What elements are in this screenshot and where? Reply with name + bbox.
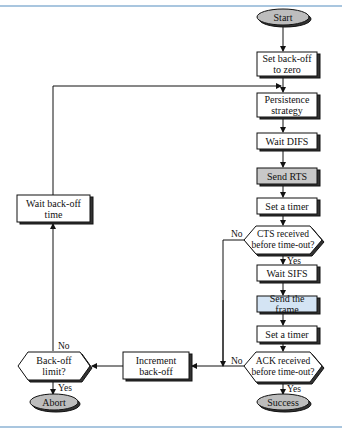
increment-backoff-step: Increment back-off [128, 352, 184, 379]
backoff-limit-yes-label: Yes [58, 383, 72, 393]
ack-yes-label: Yes [287, 384, 301, 394]
start-terminal: Start [257, 10, 309, 24]
ack-received-decision: ACK received before time-out? [250, 352, 316, 382]
set-backoff-zero-step: Set back-off to zero [259, 52, 315, 76]
backoff-limit-no-label: No [58, 341, 70, 351]
wait-difs-step: Wait DIFS [257, 133, 317, 149]
persistence-strategy-step: Persistence strategy [259, 93, 315, 117]
cts-yes-label: Yes [287, 256, 301, 266]
set-timer-step-1: Set a timer [257, 198, 317, 214]
send-frame-step: Send the frame [257, 296, 317, 312]
success-terminal: Success [257, 395, 309, 409]
wait-sifs-step: Wait SIFS [257, 265, 317, 281]
cts-received-decision: CTS received before time-out? [250, 226, 316, 254]
wait-backoff-time-step: Wait back-off time [20, 195, 87, 222]
backoff-limit-decision: Back-off limit? [28, 352, 80, 380]
abort-terminal: Abort [30, 395, 78, 409]
send-rts-step: Send RTS [257, 168, 317, 184]
set-timer-step-2: Set a timer [257, 326, 317, 342]
ack-no-label: No [231, 356, 243, 366]
cts-no-label: No [231, 229, 243, 239]
